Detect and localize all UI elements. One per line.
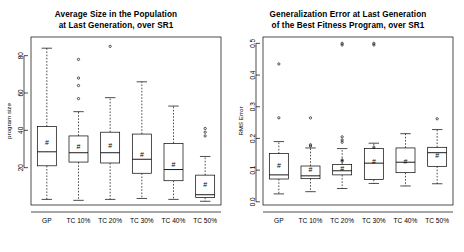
outlier-point-3: [77, 97, 79, 99]
outlier-point-1: [204, 131, 206, 133]
panel-generalization-error: Generalization Error at Last Generation …: [232, 0, 464, 252]
boxplot-tc20: #: [101, 45, 120, 199]
outlier-point-2: [77, 84, 79, 86]
mean-marker: #: [140, 151, 144, 158]
box-iqr: [37, 127, 56, 166]
boxplot-tc30: #: [132, 82, 151, 199]
x-tick-label-5: TC 50%: [425, 217, 449, 224]
outlier-point-1: [373, 44, 375, 46]
mean-marker: #: [435, 152, 439, 159]
x-tick-label-4: TC 40%: [162, 217, 186, 224]
outlier-point-0: [436, 118, 438, 120]
mean-marker: #: [309, 166, 313, 173]
plot-frame: [263, 37, 453, 205]
y-tick-label-2: 60: [17, 89, 24, 97]
outlier-point-0: [278, 63, 280, 65]
outlier-point-1: [278, 117, 280, 119]
panel-right-plot: 0.00.10.20.30.40.5RMS ErrorGPTC 10%TC 20…: [232, 0, 464, 252]
outlier-point-0: [309, 117, 311, 119]
y-tick-label-1: 0.1: [249, 165, 256, 174]
y-axis-label: program size: [5, 103, 12, 139]
y-tick-label-5: 0.5: [249, 38, 256, 47]
mean-marker: #: [372, 158, 376, 165]
mean-marker: #: [77, 143, 81, 150]
mean-marker: #: [340, 165, 344, 172]
outlier-point-2: [341, 136, 343, 138]
y-axis-label: RMS Error: [237, 106, 244, 135]
boxplot-tc50: #: [196, 127, 215, 201]
x-tick-label-2: TC 20%: [98, 217, 122, 224]
y-tick-label-2: 0.2: [249, 134, 256, 143]
right-boxplot-group: ######: [269, 42, 446, 194]
x-tick-label-3: TC 30%: [130, 217, 154, 224]
left-boxplot-group: ######: [37, 45, 214, 201]
boxplot-gp: #: [269, 63, 288, 194]
mean-marker: #: [108, 142, 112, 149]
panel-average-size: Average Size in the Population at Last G…: [0, 0, 232, 252]
x-tick-label-1: TC 10%: [299, 217, 323, 224]
y-tick-label-0: 20: [17, 164, 24, 172]
y-tick-label-3: 0.3: [249, 102, 256, 111]
x-tick-label-5: TC 50%: [193, 217, 217, 224]
figure-canvas: Average Size in the Population at Last G…: [0, 0, 464, 252]
y-tick-label-1: 40: [17, 126, 24, 134]
x-tick-label-0: GP: [274, 217, 284, 224]
x-tick-label-4: TC 40%: [394, 217, 418, 224]
mean-marker: #: [404, 158, 408, 165]
outlier-point-1: [341, 44, 343, 46]
boxplot-tc40: #: [164, 106, 183, 199]
y-tick-label-3: 80: [17, 52, 24, 60]
boxplot-tc30: #: [364, 42, 383, 183]
right-axis-group: 0.00.10.20.30.40.5RMS ErrorGPTC 10%TC 20…: [237, 37, 453, 224]
mean-marker: #: [45, 139, 49, 146]
boxplot-tc20: #: [333, 42, 352, 188]
boxplot-tc50: #: [428, 118, 447, 184]
boxplot-gp: #: [37, 48, 56, 199]
x-tick-label-0: GP: [42, 217, 52, 224]
outlier-point-0: [109, 45, 111, 47]
plot-frame: [31, 37, 221, 205]
boxplot-tc10: #: [69, 58, 88, 200]
mean-marker: #: [203, 181, 207, 188]
x-tick-label-1: TC 10%: [67, 217, 91, 224]
outlier-point-0: [204, 127, 206, 129]
outlier-point-2: [204, 135, 206, 137]
mean-marker: #: [172, 161, 176, 168]
panel-left-plot: 20406080program sizeGPTC 10%TC 20%TC 30%…: [0, 0, 232, 252]
mean-marker: #: [277, 162, 281, 169]
x-tick-label-2: TC 20%: [330, 217, 354, 224]
boxplot-tc40: #: [396, 134, 415, 186]
outlier-point-1: [77, 77, 79, 79]
boxplot-tc10: #: [301, 117, 320, 192]
x-tick-label-3: TC 30%: [362, 217, 386, 224]
y-tick-label-4: 0.4: [249, 70, 256, 79]
y-tick-label-0: 0.0: [249, 197, 256, 206]
outlier-point-0: [77, 58, 79, 60]
